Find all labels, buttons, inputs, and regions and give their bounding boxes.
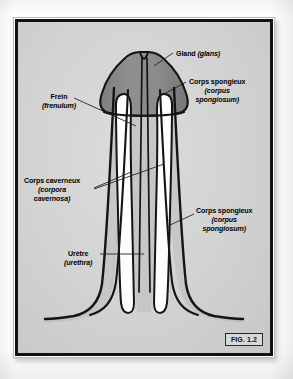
label-spongieux-bottom-fr: Corps spongieux	[196, 207, 252, 215]
label-caverneux-la1: (corpora	[24, 186, 80, 195]
label-gland-la: (glans)	[197, 50, 220, 58]
figure-number-tag: FIG. 1.2	[225, 333, 263, 346]
label-spongieux-bottom-la1: (corpus	[196, 216, 252, 225]
label-corps-spongieux-top: Corps spongieux (corpus spongiosum)	[189, 78, 245, 106]
label-spongieux-top-la1: (corpus	[189, 87, 245, 96]
label-uretre-la: (urethra)	[64, 259, 92, 268]
label-spongieux-top-fr: Corps spongieux	[189, 78, 245, 86]
label-caverneux-la2: cavernosa)	[24, 195, 80, 204]
figure-page: Gland (glans) Corps spongieux (corpus sp…	[0, 0, 293, 379]
label-uretre: Urètre (urethra)	[64, 250, 92, 268]
label-frein: Frein (frenulum)	[42, 93, 76, 111]
label-corps-spongieux-bottom: Corps spongieux (corpus spongiosum)	[196, 207, 252, 235]
corpus-cavernosum-left	[116, 94, 134, 313]
label-uretre-fr: Urètre	[68, 250, 88, 258]
label-gland: Gland (glans)	[176, 50, 220, 59]
corpus-cavernosum-right	[154, 94, 172, 313]
label-corps-caverneux: Corps caverneux (corpora cavernosa)	[24, 177, 80, 205]
label-frein-la: (frenulum)	[42, 102, 76, 111]
label-gland-fr: Gland	[176, 50, 196, 58]
label-spongieux-bottom-la2: spongiosum)	[196, 225, 252, 234]
diagram-panel: Gland (glans) Corps spongieux (corpus sp…	[18, 22, 270, 353]
label-spongieux-top-la2: spongiosum)	[189, 96, 245, 105]
label-caverneux-fr: Corps caverneux	[24, 177, 80, 185]
label-frein-fr: Frein	[51, 93, 68, 101]
